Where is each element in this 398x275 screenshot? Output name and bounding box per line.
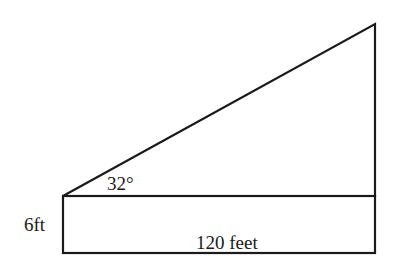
diagram-canvas: 32° 6ft 120 feet — [0, 0, 398, 275]
triangle — [63, 24, 375, 196]
angle-label: 32° — [107, 174, 134, 193]
base-label: 120 feet — [196, 233, 258, 252]
height-label: 6ft — [24, 215, 45, 234]
